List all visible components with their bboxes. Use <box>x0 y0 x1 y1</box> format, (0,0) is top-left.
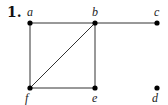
vertex-e <box>92 85 97 90</box>
edge-b-f <box>30 23 95 88</box>
vertex-f <box>27 85 32 90</box>
vertex-b <box>92 20 97 25</box>
label-a: a <box>27 5 33 19</box>
vertex-c <box>154 20 159 25</box>
vertices <box>27 20 159 90</box>
label-d: d <box>152 91 159 105</box>
vertex-d <box>154 85 159 90</box>
label-e: e <box>92 91 98 105</box>
label-c: c <box>154 5 160 19</box>
label-b: b <box>92 5 98 19</box>
label-f: f <box>25 91 30 105</box>
vertex-labels: a b c d e f <box>25 5 160 105</box>
vertex-a <box>27 20 32 25</box>
edges <box>30 23 157 88</box>
graph-diagram: a b c d e f <box>0 0 168 105</box>
